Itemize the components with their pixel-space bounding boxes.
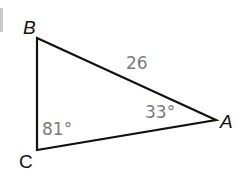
vertex-label-a: A [220, 112, 233, 131]
angle-c-label: 81° [42, 121, 72, 138]
vertex-label-b: B [23, 18, 36, 37]
vertex-label-c: C [19, 152, 33, 171]
side-length-label: 26 [126, 55, 148, 72]
angle-a-label: 33° [145, 104, 175, 121]
triangle-diagram [0, 0, 251, 180]
